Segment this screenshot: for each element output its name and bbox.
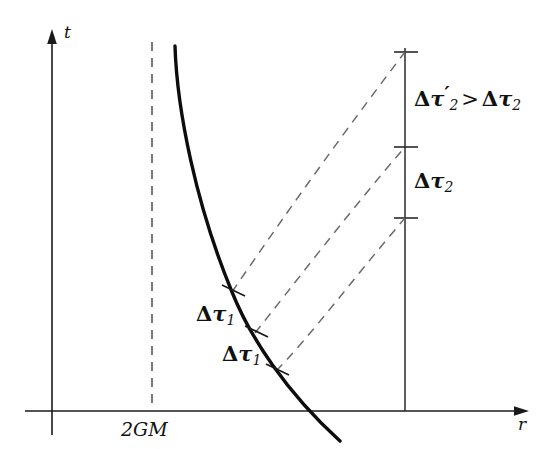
tau-subscript-2: 1 [252, 352, 261, 368]
delta-glyph-5: Δ [414, 168, 430, 193]
light-ray-3 [276, 218, 405, 371]
tau-subscript-1: 1 [226, 312, 235, 328]
spacetime-diagram-figure: t r 2GM Δτ1 Δτ1 Δτ′2>Δτ2 Δτ2 [0, 0, 552, 449]
light-ray-2 [255, 147, 405, 333]
t-axis-arrowhead-icon [47, 29, 57, 44]
delta-glyph-2: Δ [222, 341, 238, 366]
horizon-label: 2GM [121, 420, 168, 439]
proper-time-comparison-label: Δτ′2>Δτ2 [414, 84, 521, 112]
light-ray-1 [232, 52, 405, 292]
delta-glyph-1: Δ [196, 301, 212, 326]
t-axis-label: t [64, 24, 71, 41]
light-ray-paths [232, 52, 405, 371]
r-axis-label: r [518, 416, 526, 433]
infalling-worldline [175, 46, 340, 441]
delta-glyph-4: Δ [482, 86, 498, 111]
proper-time-observer-label: Δτ2 [414, 170, 453, 195]
tau-subscript-5: 2 [444, 179, 453, 195]
r-axis [25, 406, 529, 416]
proper-time-infaller-label-1: Δτ1 [196, 303, 235, 328]
diagram-canvas [0, 0, 552, 449]
tau-glyph-1: τ [212, 301, 226, 326]
proper-time-infaller-label-2: Δτ1 [222, 343, 261, 368]
tau-glyph-3: τ [430, 86, 444, 111]
t-axis [47, 29, 57, 435]
tau-subscript-3: 2 [449, 97, 458, 113]
tau-subscript-4: 2 [512, 97, 521, 113]
tau-glyph-2: τ [238, 341, 252, 366]
greater-than-glyph: > [458, 87, 482, 111]
tau-glyph-4: τ [498, 86, 512, 111]
delta-glyph-3: Δ [414, 86, 430, 111]
infaller-tick-2 [245, 326, 268, 337]
tau-glyph-5: τ [430, 168, 444, 193]
